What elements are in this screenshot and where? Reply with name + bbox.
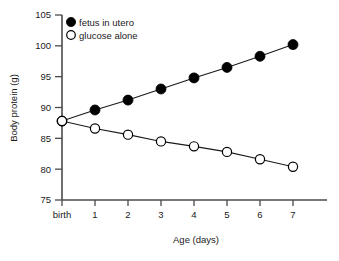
x-tick-label: 3 xyxy=(158,209,163,220)
y-tick-label: 105 xyxy=(35,9,51,20)
y-tick-label: 85 xyxy=(40,133,51,144)
legend-open-circle-icon xyxy=(67,31,76,40)
data-point-marker xyxy=(222,147,231,156)
data-point-marker xyxy=(189,142,198,151)
data-point-marker xyxy=(288,162,297,171)
legend-item-label: fetus in utero xyxy=(79,17,134,28)
data-point-marker xyxy=(156,84,166,94)
data-point-marker xyxy=(156,137,165,146)
y-tick-label: 100 xyxy=(35,40,51,51)
x-tick-label: 4 xyxy=(191,209,196,220)
y-axis-title: Body protein (g) xyxy=(8,74,19,142)
data-point-marker xyxy=(57,116,66,125)
chart-figure: 7580859095100105 birth1234567 fetus in u… xyxy=(0,0,339,261)
x-tick-label: 6 xyxy=(257,209,262,220)
data-point-marker xyxy=(90,124,99,133)
x-tick-label: birth xyxy=(53,209,71,220)
legend-filled-circle-icon xyxy=(66,17,75,26)
data-point-marker xyxy=(90,105,100,115)
y-tick-label: 95 xyxy=(40,71,51,82)
data-point-marker xyxy=(189,73,199,83)
x-tick-label: 5 xyxy=(224,209,229,220)
legend-item-label: glucose alone xyxy=(79,30,138,41)
data-point-marker xyxy=(288,40,298,50)
x-tick-label: 2 xyxy=(125,209,130,220)
chart-background xyxy=(0,0,339,261)
data-point-marker xyxy=(255,51,265,61)
x-tick-label: 7 xyxy=(290,209,295,220)
y-tick-label: 75 xyxy=(40,194,51,205)
x-tick-label: 1 xyxy=(92,209,97,220)
data-point-marker xyxy=(222,62,232,72)
chart-svg: 7580859095100105 birth1234567 fetus in u… xyxy=(0,0,339,261)
data-point-marker xyxy=(255,155,264,164)
y-tick-label: 90 xyxy=(40,102,51,113)
x-axis-title: Age (days) xyxy=(173,234,219,245)
y-tick-label: 80 xyxy=(40,164,51,175)
data-point-marker xyxy=(123,95,133,105)
data-point-marker xyxy=(123,130,132,139)
